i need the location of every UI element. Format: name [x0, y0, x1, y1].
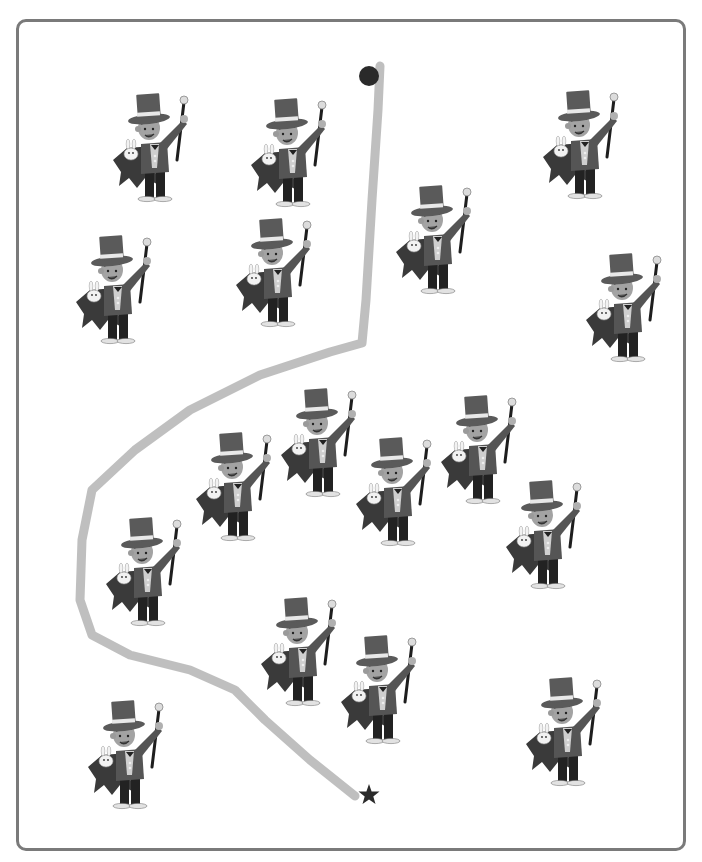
drawn-path: [80, 66, 380, 796]
start-dot-icon: [359, 66, 379, 86]
end-star-icon: [359, 784, 380, 804]
path-overlay: [0, 0, 702, 862]
